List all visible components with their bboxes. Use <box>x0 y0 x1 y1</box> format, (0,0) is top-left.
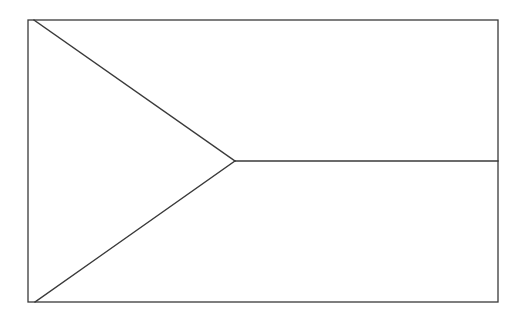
flag-outline-svg <box>0 0 526 318</box>
triangle-lower-edge <box>35 161 235 302</box>
flag-outline-diagram <box>0 0 526 318</box>
triangle-upper-edge <box>34 20 235 161</box>
